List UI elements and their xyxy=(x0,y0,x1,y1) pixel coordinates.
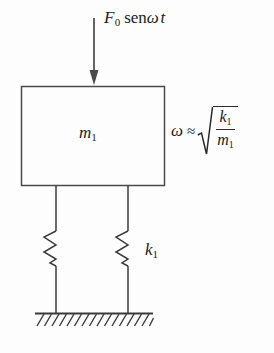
spring-left xyxy=(44,186,56,313)
mass-symbol: m xyxy=(79,123,91,142)
formula-omega-symbol: ω xyxy=(171,121,183,141)
force-omega-symbol: ω xyxy=(147,8,159,27)
spring-subscript: 1 xyxy=(153,248,159,260)
spring-constant-label: k1 xyxy=(145,241,158,260)
square-root-group: k1 m1 xyxy=(197,106,238,156)
radical-sign-icon xyxy=(197,106,214,156)
spring-symbol: k xyxy=(145,240,153,259)
force-label: F0senωt xyxy=(104,9,165,28)
force-symbol: F xyxy=(104,8,114,27)
numerator-symbol: k xyxy=(219,108,226,125)
fraction-bar xyxy=(216,129,235,130)
radicand-fraction: k1 m1 xyxy=(213,106,238,156)
oscillator-diagram xyxy=(0,0,274,353)
force-time-symbol: t xyxy=(160,8,165,27)
force-arrow-icon xyxy=(90,18,99,85)
denominator-symbol: m xyxy=(217,131,229,148)
formula-approx-symbol: ≈ xyxy=(187,123,195,140)
force-subscript: 0 xyxy=(115,16,121,28)
mass-label: m1 xyxy=(79,124,97,143)
fraction-numerator: k1 xyxy=(218,108,232,128)
mass-subscript: 1 xyxy=(91,131,97,143)
spring-right xyxy=(116,186,128,313)
numerator-subscript: 1 xyxy=(227,116,232,127)
ground-support xyxy=(35,314,154,327)
force-function: sen xyxy=(124,8,147,27)
frequency-formula: ω ≈ k1 m1 xyxy=(171,106,238,156)
fraction-denominator: m1 xyxy=(216,131,235,151)
denominator-subscript: 1 xyxy=(229,139,234,150)
